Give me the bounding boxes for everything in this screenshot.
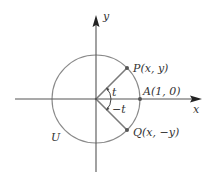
angle-t-label: t	[112, 86, 117, 99]
x-axis-label: x	[193, 103, 200, 116]
angle-neg-t-label: −t	[112, 103, 126, 116]
point-p-label: P(x, y)	[132, 62, 168, 75]
point-a-label: A(1, 0)	[142, 85, 181, 98]
point-a	[138, 97, 142, 101]
point-q-label: Q(x, −y)	[133, 126, 179, 139]
circle-u-label: U	[51, 131, 61, 144]
point-p	[125, 66, 129, 70]
origin-point	[95, 98, 97, 100]
y-axis-label: y	[102, 10, 110, 23]
point-q	[125, 128, 129, 132]
unit-circle-diagram: y x P(x, y) A(1, 0) Q(x, −y) t −t U	[0, 0, 213, 185]
